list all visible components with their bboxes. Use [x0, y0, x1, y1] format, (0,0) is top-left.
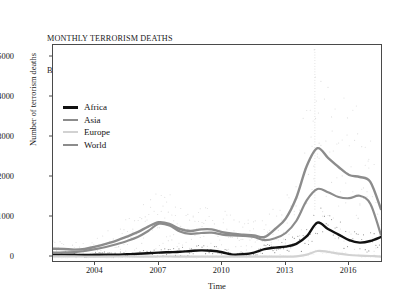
chart-legend: AfricaAsiaEuropeWorld — [63, 101, 110, 151]
legend-swatch-africa-icon — [63, 106, 78, 109]
y-tick-label: 0 — [0, 252, 14, 261]
y-tick-label: 5000 — [0, 52, 14, 61]
x-tick-mark — [158, 262, 159, 265]
legend-label: Europe — [84, 126, 110, 139]
x-tick-label: 2016 — [328, 266, 368, 275]
series-line-asia — [53, 189, 381, 253]
chart-title-line-1: MONTHLY TERRORISM DEATHS — [47, 34, 173, 45]
plot-area — [52, 44, 382, 262]
y-axis-label: Number of terrorism deaths — [29, 20, 38, 180]
x-tick-label: 2004 — [74, 266, 114, 275]
scatter-points — [53, 49, 382, 259]
y-tick-label: 3000 — [0, 132, 14, 141]
series-line-africa — [53, 222, 381, 255]
legend-label: Africa — [84, 101, 107, 114]
x-tick-label: 2010 — [201, 266, 241, 275]
legend-swatch-europe-icon — [63, 131, 78, 133]
legend-item-world[interactable]: World — [63, 139, 110, 152]
legend-item-africa[interactable]: Africa — [63, 101, 110, 114]
x-tick-mark — [221, 262, 222, 265]
x-axis-label: Time — [52, 281, 382, 291]
y-tick-label: 4000 — [0, 92, 14, 101]
legend-swatch-asia-icon — [63, 119, 78, 121]
x-tick-mark — [285, 262, 286, 265]
legend-label: Asia — [84, 114, 101, 127]
x-tick-mark — [348, 262, 349, 265]
x-tick-mark — [94, 262, 95, 265]
y-tick-label: 2000 — [0, 172, 14, 181]
legend-label: World — [84, 139, 106, 152]
legend-swatch-world-icon — [63, 144, 78, 146]
x-tick-label: 2013 — [265, 266, 305, 275]
series-canvas — [53, 45, 382, 262]
legend-item-europe[interactable]: Europe — [63, 126, 110, 139]
y-tick-label: 1000 — [0, 212, 14, 221]
chart-page: MONTHLY TERRORISM DEATHS BY CONTINENT (2… — [0, 0, 399, 305]
x-tick-label: 2007 — [138, 266, 178, 275]
legend-item-asia[interactable]: Asia — [63, 114, 110, 127]
